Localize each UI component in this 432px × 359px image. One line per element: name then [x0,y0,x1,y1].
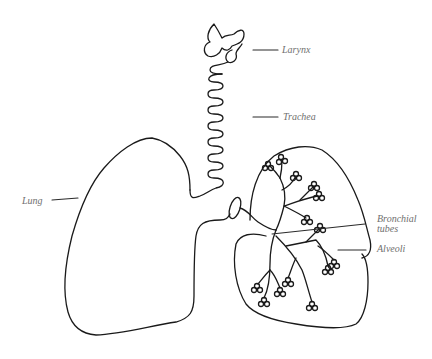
trachea-label: Trachea [283,112,316,122]
right-lung-lower-lobe [234,234,368,328]
alveolus-cluster [291,172,302,181]
alveolus-cluster [263,162,274,171]
alveolus-cluster [259,298,270,307]
larynx-shape [204,24,244,74]
larynx-label: Larynx [282,45,310,55]
bronchial-tree-lower [258,228,334,302]
alveolus-cluster [307,302,318,311]
left-lung-shape [65,138,230,335]
alveolus-cluster [252,284,263,293]
alveoli-clusters [252,155,340,311]
alveoli-label: Alveoli [377,244,405,254]
alveolus-cluster [314,192,325,201]
bronchial-tubes-label: Bronchial tubes [377,214,427,234]
respiratory-diagram [0,0,432,359]
lung-leader-line [52,198,78,200]
alveolus-cluster [275,288,286,297]
alveolus-cluster [283,278,294,287]
lung-label: Lung [22,196,43,206]
trachea-shape [190,74,223,198]
